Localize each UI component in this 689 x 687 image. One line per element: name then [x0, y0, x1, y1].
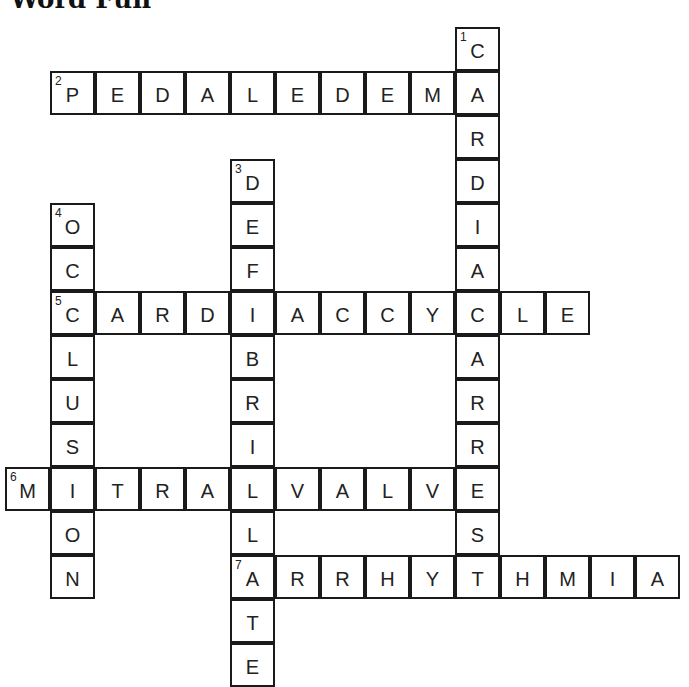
crossword-cell[interactable]: L — [230, 467, 275, 511]
crossword-cell[interactable]: A — [185, 467, 230, 511]
crossword-cell[interactable]: Y — [410, 291, 455, 335]
crossword-cell[interactable]: A — [455, 335, 500, 379]
crossword-cell[interactable]: 6M — [5, 467, 50, 511]
crossword-cell[interactable]: E — [230, 203, 275, 247]
cell-letter: D — [322, 84, 363, 107]
crossword-cell[interactable]: I — [455, 203, 500, 247]
cell-letter: H — [502, 568, 543, 591]
crossword-cell[interactable]: R — [455, 379, 500, 423]
crossword-cell[interactable]: O — [50, 511, 95, 555]
crossword-cell[interactable]: A — [320, 467, 365, 511]
cell-letter: Y — [412, 304, 453, 327]
crossword-cell[interactable]: A — [455, 71, 500, 115]
cell-letter: R — [457, 392, 498, 415]
crossword-cell[interactable]: R — [140, 467, 185, 511]
crossword-cell[interactable]: 7A — [230, 555, 275, 599]
crossword-cell[interactable]: E — [95, 71, 140, 115]
crossword-cell[interactable]: 1C — [455, 27, 500, 71]
cell-letter: A — [322, 480, 363, 503]
crossword-cell[interactable]: E — [455, 467, 500, 511]
crossword-cell[interactable]: A — [455, 247, 500, 291]
crossword-cell[interactable]: C — [365, 291, 410, 335]
cell-letter: E — [367, 84, 408, 107]
crossword-cell[interactable]: R — [455, 423, 500, 467]
crossword-cell[interactable]: E — [545, 291, 590, 335]
crossword-cell[interactable]: L — [365, 467, 410, 511]
crossword-cell[interactable]: S — [455, 511, 500, 555]
cell-letter: L — [232, 524, 273, 547]
crossword-cell[interactable]: E — [365, 71, 410, 115]
crossword-cell[interactable]: S — [50, 423, 95, 467]
crossword-cell[interactable]: U — [50, 379, 95, 423]
crossword-cell[interactable]: L — [230, 71, 275, 115]
crossword-cell[interactable]: V — [275, 467, 320, 511]
cell-letter: M — [547, 568, 588, 591]
crossword-cell[interactable]: L — [230, 511, 275, 555]
crossword-cell[interactable]: R — [320, 555, 365, 599]
cell-letter: C — [367, 304, 408, 327]
crossword-cell[interactable]: N — [50, 555, 95, 599]
cell-letter: A — [187, 84, 228, 107]
crossword-cell[interactable]: I — [230, 291, 275, 335]
crossword-cell[interactable]: R — [275, 555, 320, 599]
crossword-cell[interactable]: I — [590, 555, 635, 599]
cell-letter: B — [232, 348, 273, 371]
cell-letter: S — [52, 436, 93, 459]
cell-letter: R — [457, 128, 498, 151]
cell-letter: I — [592, 568, 633, 591]
cell-letter: T — [457, 568, 498, 591]
crossword-cell[interactable]: R — [230, 379, 275, 423]
cell-letter: I — [52, 480, 93, 503]
cell-letter: A — [637, 568, 678, 591]
crossword-cell[interactable]: A — [95, 291, 140, 335]
crossword-cell[interactable]: L — [50, 335, 95, 379]
crossword-cell[interactable]: 3D — [230, 159, 275, 203]
crossword-cell[interactable]: E — [275, 71, 320, 115]
crossword-cell[interactable]: D — [320, 71, 365, 115]
crossword-cell[interactable]: V — [410, 467, 455, 511]
cell-letter: R — [277, 568, 318, 591]
crossword-cell[interactable]: T — [230, 599, 275, 643]
crossword-cell[interactable]: C — [50, 247, 95, 291]
cell-letter: I — [232, 436, 273, 459]
cell-letter: L — [232, 480, 273, 503]
crossword-cell[interactable]: A — [635, 555, 680, 599]
crossword-cell[interactable]: L — [500, 291, 545, 335]
crossword-cell[interactable]: R — [140, 291, 185, 335]
cell-letter: R — [142, 304, 183, 327]
cell-letter: L — [367, 480, 408, 503]
cell-letter: R — [322, 568, 363, 591]
crossword-cell[interactable]: R — [455, 115, 500, 159]
crossword-cell[interactable]: T — [95, 467, 140, 511]
cell-letter: C — [52, 260, 93, 283]
crossword-cell[interactable]: A — [185, 71, 230, 115]
crossword-cell[interactable]: C — [320, 291, 365, 335]
crossword-cell[interactable]: 4O — [50, 203, 95, 247]
cell-letter: D — [457, 172, 498, 195]
crossword-cell[interactable]: B — [230, 335, 275, 379]
crossword-cell[interactable]: D — [455, 159, 500, 203]
crossword-cell[interactable]: D — [185, 291, 230, 335]
cell-letter: D — [187, 304, 228, 327]
crossword-cell[interactable]: M — [545, 555, 590, 599]
cell-letter: O — [52, 524, 93, 547]
cell-letter: E — [97, 84, 138, 107]
crossword-cell[interactable]: A — [275, 291, 320, 335]
crossword-cell[interactable]: C — [455, 291, 500, 335]
crossword-cell[interactable]: M — [410, 71, 455, 115]
crossword-cell[interactable]: H — [500, 555, 545, 599]
cell-letter: L — [52, 348, 93, 371]
crossword-cell[interactable]: T — [455, 555, 500, 599]
crossword-cell[interactable]: 5C — [50, 291, 95, 335]
cell-letter: P — [52, 84, 93, 107]
crossword-cell[interactable]: F — [230, 247, 275, 291]
crossword-cell[interactable]: E — [230, 643, 275, 687]
crossword-cell[interactable]: I — [230, 423, 275, 467]
crossword-cell[interactable]: H — [365, 555, 410, 599]
crossword-cell[interactable]: D — [140, 71, 185, 115]
cell-letter: C — [322, 304, 363, 327]
crossword-cell[interactable]: 2P — [50, 71, 95, 115]
crossword-cell[interactable]: Y — [410, 555, 455, 599]
cell-letter: E — [232, 216, 273, 239]
crossword-cell[interactable]: I — [50, 467, 95, 511]
